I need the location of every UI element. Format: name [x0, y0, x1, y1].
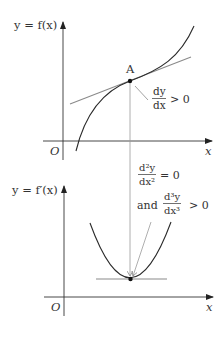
- dydx-denominator: dx: [153, 99, 166, 111]
- d3y-relation: > 0: [189, 199, 209, 212]
- dydx-annotation: dy dx > 0: [152, 85, 190, 111]
- top-y-axis-label: y = f(x): [13, 18, 57, 32]
- bottom-graph: [44, 186, 213, 316]
- top-origin-label: O: [50, 144, 60, 158]
- leader-line-dydx: [135, 86, 148, 100]
- d2y-denominator: dx²: [139, 176, 155, 187]
- third-derivative-annotation: and d³y dx³ > 0: [137, 191, 209, 216]
- vertex-point: [128, 277, 132, 281]
- point-a-label: A: [125, 62, 135, 76]
- bottom-origin-label: O: [51, 300, 61, 314]
- slanted-guide-line: [133, 222, 151, 276]
- cubic-curve: [76, 26, 194, 151]
- bottom-y-axis-label: y = f′(x): [11, 183, 58, 197]
- d3y-numerator: d³y: [164, 191, 180, 202]
- d2y-numerator: d²y: [139, 162, 155, 173]
- diagram-canvas: y = f(x) O x A dy dx > 0 d²y dx² = 0 and…: [0, 0, 222, 337]
- dydx-relation: > 0: [170, 93, 190, 106]
- and-label: and: [137, 199, 158, 212]
- top-graph: [43, 22, 212, 160]
- point-a: [128, 79, 132, 83]
- d2y-relation: = 0: [160, 169, 180, 182]
- second-derivative-annotation: d²y dx² = 0: [138, 162, 180, 187]
- parabola-curve: [90, 222, 171, 278]
- bottom-x-axis-label: x: [206, 300, 213, 314]
- dydx-numerator: dy: [153, 85, 166, 97]
- d3y-denominator: dx³: [164, 205, 180, 216]
- top-x-axis-label: x: [205, 144, 212, 158]
